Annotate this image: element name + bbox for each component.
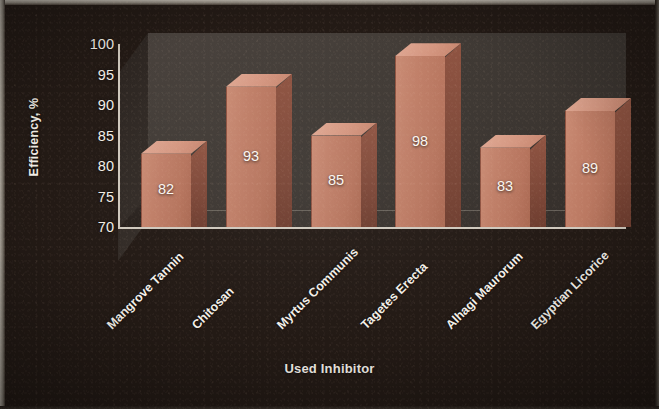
category-label-4: Alhagi Maurorum <box>443 249 526 332</box>
category-label-3: Tagetes Erecta <box>358 260 430 332</box>
page-edge-left <box>0 0 5 409</box>
category-label-1: Chitosan <box>189 284 237 332</box>
x-axis-title: Used Inhibitor <box>0 361 659 376</box>
y-axis-title: Efficiency, % <box>27 77 41 197</box>
x-axis-category-labels: Mangrove TanninChitosanMyrtus CommunisTa… <box>0 0 659 409</box>
chart-figure: 100959085807570 829385988389 Mangrove Ta… <box>0 0 659 409</box>
page-edge-right <box>655 0 659 409</box>
category-label-2: Myrtus Communis <box>274 245 361 332</box>
category-label-0: Mangrove Tannin <box>104 250 186 332</box>
category-label-5: Egyptian Licorice <box>528 248 612 332</box>
page-edge-top <box>0 0 659 5</box>
